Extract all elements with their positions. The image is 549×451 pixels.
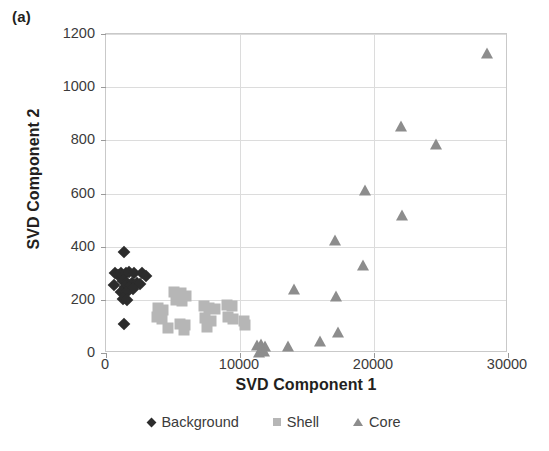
legend-item-background[interactable]: Background [148, 414, 238, 430]
triangle-icon [353, 418, 363, 426]
y-tick-mark [101, 300, 106, 301]
x-axis-title: SVD Component 1 [105, 376, 507, 394]
gridline-horizontal [106, 87, 506, 88]
data-point-core [314, 336, 326, 347]
gridline-horizontal [106, 300, 506, 301]
y-tick-label: 600 [33, 185, 95, 201]
data-point-core [329, 235, 341, 246]
gridline-horizontal [106, 194, 506, 195]
data-point-shell [162, 322, 173, 333]
x-tick-label: 30000 [467, 356, 547, 372]
data-point-shell [178, 325, 189, 336]
x-tick-label: 10000 [199, 356, 279, 372]
y-tick-label: 200 [33, 291, 95, 307]
data-point-core [481, 47, 493, 58]
data-point-background [118, 317, 131, 330]
legend-label: Core [369, 414, 400, 430]
data-point-shell [201, 321, 212, 332]
y-axis-title: SVD Component 2 [25, 59, 43, 299]
legend-label: Shell [287, 414, 319, 430]
data-point-core [288, 284, 300, 295]
y-tick-mark [101, 194, 106, 195]
data-point-core [282, 341, 294, 352]
data-point-shell [240, 320, 251, 331]
data-point-core [332, 326, 344, 337]
scatter-plot-figure: (a) SVD Component 2 SVD Component 1 Back… [0, 0, 549, 451]
plot-area [105, 33, 507, 352]
x-tick-label: 20000 [333, 356, 413, 372]
data-point-core [330, 290, 342, 301]
y-tick-mark [101, 34, 106, 35]
y-tick-mark [101, 140, 106, 141]
gridline-horizontal [106, 247, 506, 248]
chart-legend: BackgroundShellCore [0, 414, 549, 430]
data-point-shell [228, 313, 239, 324]
legend-item-shell[interactable]: Shell [273, 414, 319, 430]
y-tick-label: 400 [33, 238, 95, 254]
legend-item-core[interactable]: Core [353, 414, 400, 430]
gridline-horizontal [106, 140, 506, 141]
diamond-icon [147, 417, 157, 427]
data-point-shell [209, 304, 220, 315]
legend-label: Background [161, 414, 238, 430]
data-point-core [395, 120, 407, 131]
x-tick-label: 0 [65, 356, 145, 372]
gridline-vertical [240, 34, 241, 351]
panel-label: (a) [12, 8, 31, 25]
data-point-shell [177, 296, 188, 307]
data-point-core [430, 139, 442, 150]
y-tick-mark [101, 247, 106, 248]
data-point-core [258, 345, 270, 356]
square-icon [273, 418, 281, 426]
y-tick-label: 1200 [33, 25, 95, 41]
y-tick-mark [101, 87, 106, 88]
data-point-core [396, 209, 408, 220]
gridline-vertical [374, 34, 375, 351]
data-point-core [359, 184, 371, 195]
y-tick-label: 1000 [33, 78, 95, 94]
data-point-shell [226, 301, 237, 312]
gridline-horizontal [106, 34, 506, 35]
y-tick-label: 800 [33, 131, 95, 147]
data-point-core [357, 260, 369, 271]
